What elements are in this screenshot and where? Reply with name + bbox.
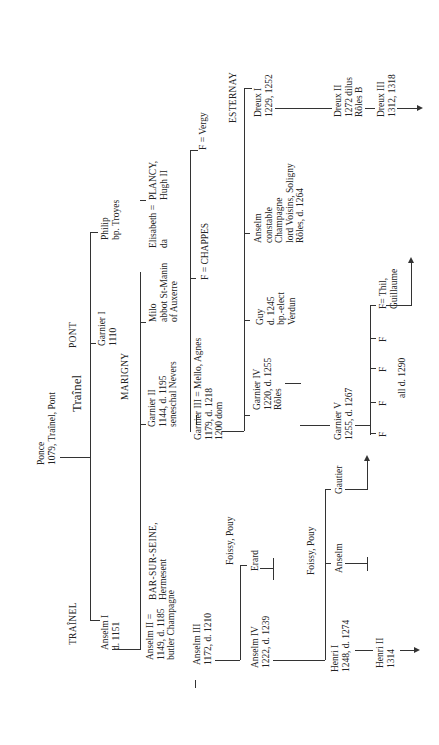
branch-esternay: ESTERNAY — [228, 72, 239, 123]
person-elisabeth: Elisabeth = da — [148, 205, 169, 248]
connector — [370, 305, 376, 306]
person-henri-1: Henri I 1248, d. 1274 — [330, 620, 351, 672]
connector — [355, 650, 373, 651]
branch-pont: PONT — [68, 322, 79, 348]
person-anselm-1: Anselm I d. 1151 — [100, 615, 121, 650]
person-philip: Philip bp. Troyes — [100, 200, 121, 240]
connector — [90, 232, 98, 233]
connector — [365, 108, 375, 109]
connector — [325, 489, 326, 555]
generation-1-spine — [90, 270, 91, 620]
diagram-title: Traînel — [70, 375, 84, 412]
connector — [240, 565, 247, 566]
person-guy: Guy d. 1245 bp.-elect Verdun — [255, 292, 297, 325]
connector — [112, 649, 140, 650]
connector — [90, 620, 100, 621]
daughter-4: F — [378, 337, 389, 342]
connector — [190, 150, 198, 151]
person-henri-2: Henri II 1314 — [375, 638, 396, 668]
person-anselm-foissy: Anselm — [334, 543, 345, 573]
connector — [190, 278, 196, 279]
person-anselm-constable: Anselm constable Champagne lord Voisins,… — [253, 163, 306, 243]
connector — [367, 557, 368, 571]
connector — [400, 650, 414, 651]
connector — [195, 680, 196, 688]
continuation-arrow — [408, 257, 414, 263]
daughters-note: all d. 1290 — [397, 358, 408, 398]
connector — [411, 262, 412, 306]
person-dreux-1: Dreux I 1229, 1252 — [253, 74, 274, 117]
daughter-5: F= Thil, Guillaume — [378, 269, 399, 309]
branch-bar-sur-seine: BAR-SUR-SEINE, — [148, 522, 159, 600]
root-connector — [60, 457, 90, 458]
connector — [370, 433, 376, 434]
connector — [273, 558, 274, 580]
connector — [90, 232, 91, 270]
person-garnier-3: Garnier III = Mello, Agnes 1179, d. 1218… — [193, 338, 225, 440]
connector — [244, 88, 252, 89]
daughter-3: F — [378, 367, 389, 372]
generation-3-spine — [244, 88, 245, 431]
connector — [190, 150, 191, 432]
branch-marigny: MARIGNY — [120, 353, 131, 401]
connector — [386, 305, 411, 306]
connector — [244, 233, 250, 234]
branch-trainel: TRAÎNEL — [68, 602, 79, 645]
person-plancy: PLANCY, Hugh II — [148, 161, 169, 200]
person-milo: Milo abbot St-Manin of Auxerre — [148, 263, 180, 322]
connector — [285, 383, 300, 384]
person-gautier: Gautier — [334, 466, 345, 495]
person-chappes: F = CHAPPES — [200, 223, 211, 280]
person-anselm-2: Anselm II = 1149, d. 1185 butler Champag… — [145, 590, 177, 660]
branch-foissy-pouy-2: Foissy, Pouy — [306, 527, 317, 575]
daughter-2: F — [378, 401, 389, 406]
connector — [370, 402, 376, 403]
continuation-arrow — [364, 455, 370, 461]
connector — [244, 415, 250, 416]
connector — [260, 568, 274, 569]
connector — [240, 565, 241, 660]
person-anselm-3: Anselm III 1172, d. 1210 — [192, 613, 213, 665]
connector — [300, 383, 301, 384]
genealogy-diagram: Traînel Ponce 1079, Traînel, Pont TRAÎNE… — [0, 0, 439, 745]
connector — [397, 108, 417, 109]
person-garnier-2: Garnier II 1144, d. 1195 seneschal Never… — [147, 361, 179, 427]
person-hermesent: Hermesent — [158, 559, 169, 600]
person-garnier-4: Garnier IV 1220, d. 1255 Rôles — [252, 358, 284, 410]
connector — [345, 563, 367, 564]
connector — [244, 320, 250, 321]
connector — [275, 108, 332, 109]
person-dreux-3: Dreux III 1312, 1318 — [376, 74, 397, 117]
connector — [325, 563, 331, 564]
connector — [90, 343, 96, 344]
connector — [90, 270, 91, 271]
person-ponce: Ponce 1079, Traînel, Pont — [36, 392, 57, 465]
daughter-1: F — [378, 432, 389, 437]
connector — [370, 368, 376, 369]
connector — [222, 431, 244, 432]
person-dreux-2: Dreux II 1272 dilus Rôles B — [333, 77, 365, 117]
person-erard: Erard — [250, 550, 261, 571]
connector — [370, 338, 376, 339]
connector — [325, 555, 326, 660]
daughters-spine — [370, 305, 371, 435]
connector — [140, 424, 146, 425]
connector — [367, 460, 368, 490]
generation-2-spine — [140, 272, 141, 650]
branch-foissy-pouy-1: Foissy, Pouy — [225, 517, 236, 565]
person-garnier-1: Garnier I 1110 — [97, 311, 118, 346]
person-anselm-4: Anselm IV 1222, d. 1239 — [250, 616, 271, 668]
connector — [273, 660, 325, 661]
connector — [140, 200, 146, 201]
connector — [140, 322, 146, 323]
continuation-arrow — [417, 105, 423, 111]
continuation-arrow — [414, 647, 420, 653]
connector — [355, 425, 370, 426]
connector — [300, 425, 330, 426]
connector — [345, 489, 367, 490]
person-garnier-5: Garnier V 1255, d. 1267 — [333, 388, 354, 440]
person-vergy: F = Vergy — [198, 112, 209, 150]
connector — [215, 660, 240, 661]
